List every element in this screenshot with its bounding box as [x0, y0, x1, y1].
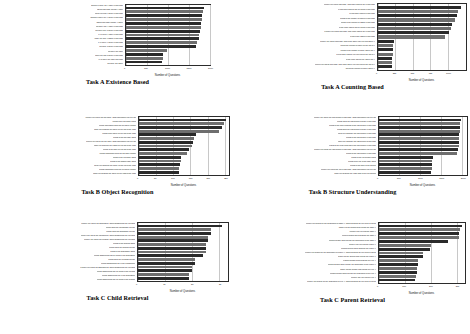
y-axis-tick-label: When you check the Background, which sub… — [80, 267, 135, 269]
y-axis-tick-label: When you check the first section of this… — [314, 117, 376, 119]
bar-series — [379, 117, 467, 175]
y-axis-tick-label: What is the last section in this page? — [346, 153, 376, 155]
chart-title: Task B Structure Understanding — [309, 188, 397, 195]
x-axis: 02505007501000 — [239, 71, 467, 78]
y-axis-tick-label: What is the Results about? — [113, 243, 135, 245]
bar-row — [378, 65, 466, 69]
y-axis-tick-label: Which section does describe the Figure X… — [341, 248, 376, 250]
y-axis-tick-label: Can you describe the figure on the left … — [94, 165, 136, 167]
y-axis-tick-label: How many figures are above the X? — [346, 59, 375, 61]
y-axis-tick-label: What subsections are in the Discussion? — [102, 275, 135, 277]
plot-area: When you check the top figure, what info… — [6, 116, 230, 176]
y-axis-tick-labels: When you check the Discussion, which sub… — [7, 222, 137, 282]
x-axis-tick-label: 50 — [154, 177, 156, 179]
y-axis-tick-label: Where can you find the Figure X? — [349, 244, 376, 246]
plot-area: When you check this page, how many figur… — [239, 3, 467, 71]
y-axis-tick-label: What is the top figure about? — [112, 121, 136, 123]
y-axis-tick-label: Count the number of figure on the top of… — [340, 45, 375, 47]
y-axis-tick-label: What does the Introduction include? — [106, 227, 135, 229]
x-axis-tick-label: 500 — [411, 72, 415, 74]
y-axis-tick-label: What does the last section include in th… — [337, 121, 376, 123]
x-axis-title: Number of Questions — [6, 184, 230, 187]
y-axis-tick-label: What information does the top figure con… — [99, 125, 136, 127]
y-axis-tick-labels: When you check this page, how many figur… — [239, 3, 377, 71]
chart-panel: Confirm if there are X table in this pag… — [0, 0, 235, 110]
y-axis-tick-label: What information does the left figure co… — [99, 169, 136, 171]
x-axis: 050100150200250 — [6, 176, 230, 183]
x-axis-tick-label: 30 — [219, 283, 221, 285]
y-axis-tick-label: Name out the section that include the Ta… — [338, 227, 376, 229]
y-axis-tick-label: Name out the section that include the Fi… — [340, 269, 376, 271]
x-axis-tick-label: 1500 — [439, 177, 444, 179]
y-axis-tick-label: Can you find a figure in this page? — [95, 55, 123, 57]
y-axis-tick-label: What is the topic of left section? — [350, 165, 376, 167]
y-axis-tick-label: When you search for the description of F… — [307, 281, 376, 283]
y-axis-tick-label: Can you describe the tables on the top o… — [94, 145, 136, 147]
bar-row — [138, 276, 228, 280]
y-axis-tick-label: What is the left figure about? — [113, 157, 136, 159]
x-axis: 0500100015002000 — [238, 176, 468, 183]
x-axis-tick-label: 1000 — [446, 72, 451, 74]
y-axis-tick-label: What is the first section in this page? — [346, 137, 376, 139]
y-axis-tick-label: What subsections can be found in the Dis… — [94, 255, 135, 257]
y-axis-tick-label: Count the number of figure above X. — [345, 68, 375, 70]
x-axis-tick-label: 2000 — [461, 177, 466, 179]
bar-series — [379, 223, 465, 283]
chart-panel: When you search for the description of T… — [235, 218, 470, 334]
y-axis-tick-label: Are there X figure in this page? — [98, 42, 123, 44]
y-axis-tick-label: Can you describe the main topic of the l… — [334, 173, 376, 175]
x-axis-tick-label: 0 — [137, 177, 138, 179]
x-axis: 0500100015002000 — [25, 66, 211, 73]
y-axis-tick-label: What is the table on the top of the page… — [103, 149, 136, 151]
x-axis-tick-label: 0 — [377, 285, 378, 287]
x-axis-tick-label: 100 — [171, 177, 175, 179]
chart-title: Task A Counting Based — [321, 83, 384, 90]
y-axis-tick-label: Confirm if there are X table in this pag… — [91, 5, 124, 7]
plot-area: Confirm if there are X table in this pag… — [25, 4, 211, 66]
bar-series — [138, 223, 228, 281]
bar-row — [379, 278, 465, 282]
x-axis-tick-label: 0 — [136, 283, 137, 285]
y-axis-tick-label: What does the Results include? — [109, 247, 135, 249]
axes-frame — [377, 3, 467, 71]
y-axis-tick-label: What is the left section about? — [351, 157, 376, 159]
y-axis-tick-label: Can you describe the figure on the top o… — [94, 129, 136, 131]
y-axis-tick-label: What is the number of figure above the X… — [340, 50, 375, 52]
y-axis-tick-label: When you check the Discussion, which sub… — [81, 223, 135, 225]
y-axis-tick-label: What is the left of the page about? — [348, 161, 376, 163]
bar-row — [379, 170, 467, 174]
x-axis-tick-label: 750 — [429, 72, 433, 74]
y-axis-tick-label: When you check the top figure, what info… — [85, 117, 136, 119]
y-axis-tick-label: Does this page include X table? — [97, 9, 123, 11]
y-axis-tick-label: What does the Methods include? — [108, 259, 135, 261]
x-axis-tick-label: 500 — [397, 177, 401, 179]
axes-frame — [378, 116, 468, 176]
axes-frame — [378, 222, 466, 284]
y-axis-tick-labels: When you check the top figure, what info… — [6, 116, 138, 176]
chart-title: Task C Parent Retrieval — [320, 296, 385, 303]
y-axis-tick-label: When you search for the description of T… — [306, 223, 376, 225]
y-axis-tick-label: When you check the Results, which subsec… — [84, 239, 135, 241]
bar-series — [139, 117, 229, 175]
y-axis-tick-label: Can you find X tables in this page? — [94, 38, 123, 40]
x-axis-tick-label: 1500 — [187, 67, 192, 69]
bar — [138, 277, 190, 280]
y-axis-tick-label: Can you describe the first section in th… — [338, 133, 376, 135]
y-axis-tick-label: Where can you find the Fig. X? — [351, 277, 376, 279]
x-axis-title: Number of Questions — [239, 79, 467, 82]
y-axis-tick-label: Which section does describe the Fig. X? — [343, 260, 376, 262]
x-axis: 0100200300 — [240, 284, 466, 291]
chart-panel: When you check the Discussion, which sub… — [0, 218, 235, 334]
bar-series — [126, 5, 210, 65]
plot-area: When you search for the description of T… — [240, 222, 466, 284]
y-axis-tick-label: What is the figure on the top of the pag… — [102, 133, 136, 135]
y-axis-tick-label: Can you describe the figure on the right… — [93, 173, 136, 175]
x-axis-tick-label: 250 — [224, 177, 228, 179]
y-axis-tick-label: Is there only X table in this page? — [96, 26, 123, 28]
chart-title: Task B Object Recognition — [81, 188, 153, 195]
bar — [379, 171, 432, 174]
x-axis-tick-label: 1000 — [418, 177, 423, 179]
y-axis-tick-label: How many tables in this page? — [350, 36, 375, 38]
x-axis-tick-label: 250 — [393, 72, 397, 74]
chart-title: Task A Existence Based — [86, 78, 149, 85]
